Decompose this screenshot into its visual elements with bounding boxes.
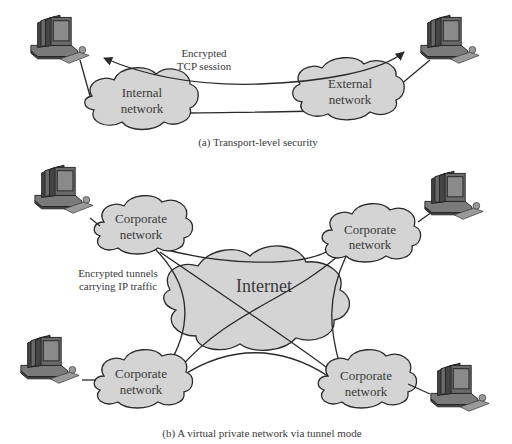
tunnel-bl-br <box>182 353 328 376</box>
corporate-tl-label-2: network <box>120 227 163 242</box>
external-host-link <box>400 60 430 85</box>
external-host-computer-icon <box>421 15 479 63</box>
caption-b: (b) A virtual private network via tunnel… <box>162 427 362 440</box>
corporate-br-label-2: network <box>345 384 388 399</box>
corporate-tr-label-1: Corporate <box>344 222 396 237</box>
panel-a-transport-level: Internal network External network Encryp… <box>31 15 479 149</box>
external-cloud-label-1: External <box>328 76 372 91</box>
internal-cloud-label-2: network <box>121 101 164 116</box>
corporate-bl-label-2: network <box>120 382 163 397</box>
caption-a: (a) Transport-level security <box>198 136 318 149</box>
bottom-right-host-computer-icon <box>431 363 489 411</box>
tl-host-link <box>90 218 100 226</box>
tunnel-label-2: carrying IP traffic <box>79 280 157 292</box>
corporate-br-label-1: Corporate <box>340 368 392 383</box>
network-security-diagram: Internal network External network Encryp… <box>0 0 512 444</box>
corporate-bl-label-1: Corporate <box>115 366 167 381</box>
top-right-host-computer-icon <box>425 171 483 219</box>
corporate-tl-label-1: Corporate <box>115 211 167 226</box>
tunnel-label-1: Encrypted tunnels <box>78 267 158 279</box>
bottom-left-host-computer-icon <box>21 335 79 383</box>
external-cloud-label-2: network <box>329 92 372 107</box>
internal-host-link <box>80 60 90 96</box>
session-label-2: TCP session <box>177 60 232 72</box>
top-left-host-computer-icon <box>35 165 93 213</box>
panel-b-vpn-tunnel-mode: Internet Corporate network Corporate net… <box>21 165 489 440</box>
internal-host-computer-icon <box>31 15 89 63</box>
corporate-tr-label-2: network <box>349 237 392 252</box>
internal-cloud-label-1: Internal <box>122 85 163 100</box>
session-label-1: Encrypted <box>181 47 227 59</box>
